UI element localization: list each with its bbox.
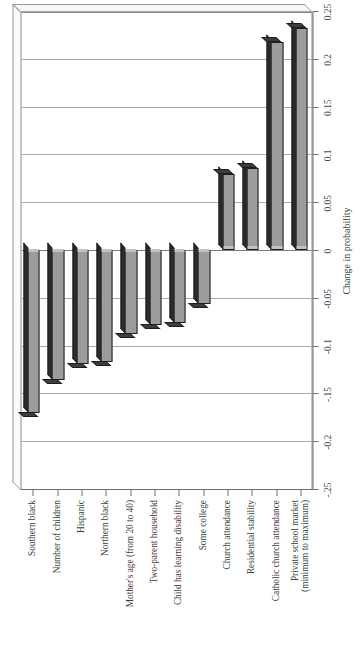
category-label: Catholic church attendance	[270, 500, 280, 601]
category-tick	[105, 490, 106, 496]
category-label-line: Catholic church attendance	[270, 500, 280, 601]
bar-chart: -.25-0.2-.15-0.1-0.0500.050.10.150.20.25…	[0, 0, 361, 662]
gridline	[21, 346, 311, 347]
bar-highlight	[77, 249, 88, 252]
bar-end-face	[163, 322, 183, 327]
category-label: Child has learning disability	[173, 500, 183, 605]
value-tick-label: -.25	[322, 482, 332, 497]
value-tick-label: -0.2	[322, 435, 332, 450]
category-label: Two-parent household	[149, 500, 159, 583]
gridline	[21, 441, 311, 442]
category-label-line: Number of children	[51, 500, 61, 573]
value-tick	[312, 59, 318, 60]
bar-top-face	[218, 167, 223, 250]
category-tick	[300, 490, 301, 496]
bar	[100, 250, 113, 362]
value-tick	[312, 298, 318, 299]
value-tick	[312, 154, 318, 155]
bar-highlight	[28, 249, 39, 252]
bar-end-face	[66, 363, 86, 368]
bar-highlight	[52, 249, 63, 252]
value-tick	[312, 250, 318, 251]
category-label-line: Church attendance	[222, 500, 232, 569]
category-tick	[276, 490, 277, 496]
category-tick	[154, 490, 155, 496]
category-label-line: Some college	[197, 500, 207, 550]
bar-top-face	[266, 34, 271, 250]
bar-top-face	[72, 242, 77, 363]
zero-line	[21, 250, 311, 251]
bar-end-face	[261, 37, 281, 42]
category-label-line: Hispanic	[76, 500, 86, 533]
gridline	[21, 393, 311, 394]
value-tick	[312, 107, 318, 108]
value-tick-label: -.15	[322, 387, 332, 402]
category-label-line: Private school market	[289, 500, 299, 592]
bar-highlight	[296, 246, 307, 249]
bar	[76, 250, 89, 364]
bar	[173, 250, 186, 323]
value-tick-label: -0.1	[322, 339, 332, 354]
category-tick	[203, 490, 204, 496]
category-label: Private school market(minimum to maximum…	[289, 500, 310, 592]
gridline	[21, 298, 311, 299]
bar-top-face	[96, 242, 101, 361]
bar-top-face	[23, 242, 28, 412]
category-label: Number of children	[51, 500, 61, 573]
rotated-figure-wrapper: -.25-0.2-.15-0.1-0.0500.050.10.150.20.25…	[0, 0, 361, 662]
rotated-figure-inner: -.25-0.2-.15-0.1-0.0500.050.10.150.20.25…	[0, 0, 361, 662]
value-tick	[312, 11, 318, 12]
bar	[270, 42, 283, 250]
category-label: Hispanic	[76, 500, 86, 533]
category-axis-labels: Southern blackNumber of childrenHispanic…	[20, 492, 312, 662]
category-label: Residential stability	[246, 500, 256, 574]
bar	[295, 28, 308, 250]
bar-top-face	[193, 242, 198, 304]
value-tick-label: 0.2	[322, 54, 332, 66]
value-tick-label: 0	[322, 249, 332, 254]
category-label: Some college	[197, 500, 207, 550]
bar-top-face	[47, 242, 52, 380]
value-tick	[312, 346, 318, 347]
bar-end-face	[285, 23, 305, 28]
category-tick	[227, 490, 228, 496]
bar	[124, 250, 137, 334]
value-tick-label: -0.05	[322, 289, 332, 309]
value-tick	[312, 441, 318, 442]
category-tick	[57, 490, 58, 496]
category-axis-line	[20, 489, 312, 490]
value-tick-label: 0.15	[322, 99, 332, 116]
category-tick	[32, 490, 33, 496]
gridline	[21, 11, 311, 12]
value-tick	[312, 489, 318, 490]
category-label-line: Child has learning disability	[173, 500, 183, 605]
bar-highlight	[198, 249, 209, 252]
bar	[222, 174, 235, 250]
bar	[197, 250, 210, 304]
bar-highlight	[223, 246, 234, 249]
bar-end-face	[115, 333, 135, 338]
plot-depth-top	[12, 4, 20, 490]
value-tick	[312, 393, 318, 394]
value-tick-label: 0.25	[322, 4, 332, 21]
category-tick	[251, 490, 252, 496]
category-label-line: (minimum to maximum)	[300, 500, 310, 592]
bar-end-face	[212, 169, 232, 174]
value-tick-label: 0.1	[322, 149, 332, 161]
category-label-line: Southern black	[27, 500, 37, 556]
bar-end-face	[42, 379, 62, 384]
category-label-line: Residential stability	[246, 500, 256, 574]
bar-top-face	[120, 242, 125, 334]
bar-highlight	[174, 249, 185, 252]
bar-end-face	[90, 361, 110, 366]
bar-highlight	[150, 249, 161, 252]
bar	[149, 250, 162, 325]
value-tick-label: 0.05	[322, 195, 332, 212]
category-tick	[81, 490, 82, 496]
bar	[246, 168, 259, 250]
bar-highlight	[125, 249, 136, 252]
bar	[27, 250, 40, 413]
bar-highlight	[101, 249, 112, 252]
category-label: Mother's age (from 20 to 40)	[124, 500, 134, 607]
bar-top-face	[169, 242, 174, 322]
